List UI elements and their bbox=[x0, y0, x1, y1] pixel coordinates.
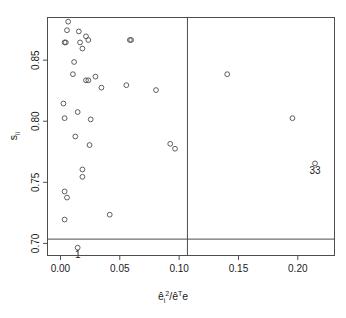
y-title-sub: ii bbox=[14, 131, 21, 135]
x-tick-label: 0.20 bbox=[288, 263, 308, 274]
y-tick-label: 0.80 bbox=[30, 111, 41, 131]
x-title-base3: e bbox=[182, 290, 188, 302]
y-tick-label: 0.70 bbox=[30, 233, 41, 253]
point-label-1: 1 bbox=[75, 249, 81, 260]
svg-text:êi2/êTe: êi2/êTe bbox=[158, 290, 188, 304]
scatter-plot-figure: 133 0.000.050.100.150.20 0.700.750.800.8… bbox=[0, 0, 346, 318]
x-tick-label: 0.15 bbox=[229, 263, 249, 274]
x-axis-title: êi2/êTe bbox=[158, 290, 188, 304]
plot-canvas: 133 0.000.050.100.150.20 0.700.750.800.8… bbox=[0, 0, 346, 318]
point-label-33: 33 bbox=[309, 165, 321, 176]
x-tick-label: 0.05 bbox=[110, 263, 130, 274]
x-tick-label: 0.00 bbox=[51, 263, 71, 274]
y-tick-label: 0.75 bbox=[30, 172, 41, 192]
y-tick-label: 0.85 bbox=[30, 50, 41, 70]
x-tick-label: 0.10 bbox=[169, 263, 189, 274]
